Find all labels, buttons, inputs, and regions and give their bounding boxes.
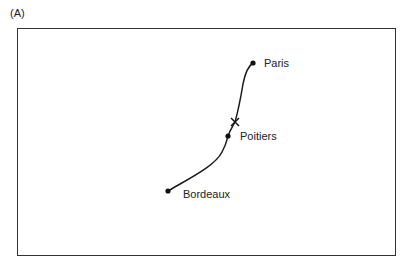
route-line (168, 63, 253, 191)
route-diagram (0, 0, 410, 271)
paris-dot-icon (250, 60, 255, 65)
bordeaux-dot-icon (165, 188, 170, 193)
city-label-poitiers: Poitiers (240, 131, 277, 142)
poitiers-dot-icon (225, 133, 230, 138)
city-label-bordeaux: Bordeaux (183, 189, 230, 200)
city-label-paris: Paris (264, 58, 289, 69)
